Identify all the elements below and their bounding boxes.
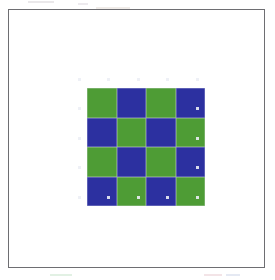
grid-vertex-marker bbox=[78, 137, 81, 140]
grid-vertex-marker bbox=[78, 107, 81, 110]
grid-vertex-marker bbox=[78, 78, 81, 81]
grid-vertex-marker bbox=[78, 196, 81, 199]
figure-border bbox=[8, 9, 265, 268]
grid-vertex-marker bbox=[107, 78, 110, 81]
board-cell[interactable] bbox=[87, 177, 117, 207]
board-cell[interactable] bbox=[117, 147, 147, 177]
board-cell[interactable] bbox=[146, 177, 176, 207]
board-cell[interactable] bbox=[176, 118, 206, 148]
compression-artifact bbox=[50, 274, 72, 276]
checkerboard-grid bbox=[87, 88, 205, 206]
grid-vertex-marker bbox=[166, 78, 169, 81]
figure-canvas bbox=[0, 0, 275, 280]
compression-artifact bbox=[78, 3, 88, 5]
board-cell[interactable] bbox=[117, 177, 147, 207]
compression-artifact bbox=[28, 1, 54, 3]
board-cell[interactable] bbox=[146, 88, 176, 118]
board-cell[interactable] bbox=[146, 118, 176, 148]
board-cell[interactable] bbox=[87, 88, 117, 118]
board-cell[interactable] bbox=[87, 118, 117, 148]
grid-vertex-marker bbox=[78, 166, 81, 169]
compression-artifact bbox=[204, 274, 222, 276]
board-cell[interactable] bbox=[176, 88, 206, 118]
board-cell[interactable] bbox=[87, 147, 117, 177]
board-cell[interactable] bbox=[176, 177, 206, 207]
board-cell[interactable] bbox=[176, 147, 206, 177]
compression-artifact bbox=[226, 274, 240, 276]
grid-vertex-marker bbox=[137, 78, 140, 81]
board-cell[interactable] bbox=[146, 147, 176, 177]
board-cell[interactable] bbox=[117, 118, 147, 148]
grid-vertex-marker bbox=[196, 78, 199, 81]
board-cell[interactable] bbox=[117, 88, 147, 118]
